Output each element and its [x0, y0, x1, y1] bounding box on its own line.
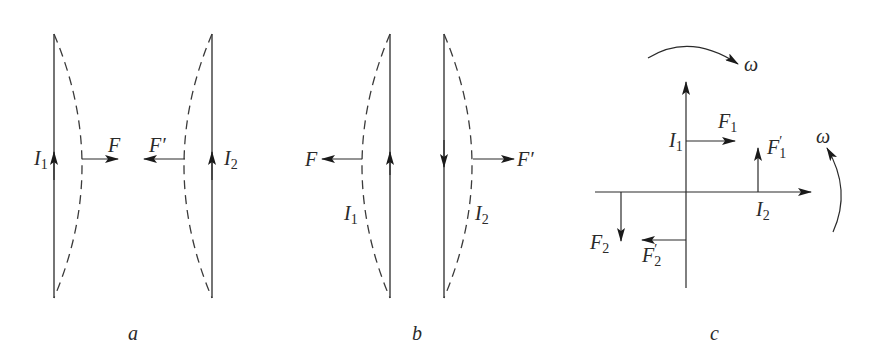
panel-b: F F′ I1 I2 b [304, 34, 534, 344]
caption-c: c [710, 322, 719, 344]
field-line-left [54, 34, 82, 298]
label-i1: I1 [33, 147, 48, 172]
caption-b: b [412, 322, 422, 344]
label-force-f-prime: F′ [148, 134, 166, 156]
figure-canvas: I1 I2 F F′ a F F′ I1 I2 b [0, 0, 877, 364]
label-f2-prime: F2′ [641, 242, 661, 269]
rotation-arrow-top-icon [648, 46, 738, 64]
label-f1-prime: F1′ [766, 134, 786, 161]
label-force-f-prime: F′ [516, 148, 534, 170]
panel-c: ω ω I1 I2 F1 F1′ F2 F2′ c [589, 46, 841, 344]
panel-a: I1 I2 F F′ a [33, 34, 238, 344]
label-omega-top: ω [744, 53, 758, 75]
label-force-f: F [107, 134, 121, 156]
label-i2: I2 [755, 198, 770, 223]
label-i2: I2 [474, 202, 489, 227]
field-line-left [362, 34, 390, 298]
label-i1: I1 [668, 129, 683, 154]
rotation-arrow-right-icon [827, 148, 841, 232]
label-omega-right: ω [816, 125, 830, 147]
label-force-f: F [304, 148, 318, 170]
label-i1: I1 [343, 202, 358, 227]
label-i2: I2 [223, 147, 238, 172]
field-line-right [184, 34, 212, 298]
label-f2: F2 [589, 231, 609, 256]
field-line-right [444, 34, 472, 298]
label-f1: F1 [717, 110, 737, 135]
caption-a: a [128, 322, 138, 344]
